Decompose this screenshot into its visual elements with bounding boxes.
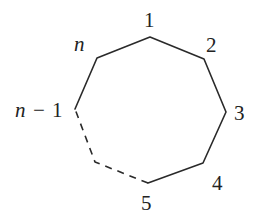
solid-edges-n-to-5 xyxy=(75,37,226,183)
vertex-label-3: 3 xyxy=(234,101,245,125)
vertex-label-5: 5 xyxy=(141,191,152,215)
vertex-label-1: 1 xyxy=(144,8,155,32)
vertex-label-n-minus-1-n: n xyxy=(15,98,26,122)
polygon-diagram: 1 2 3 4 5 n n − 1 xyxy=(0,0,259,219)
vertex-label-4: 4 xyxy=(212,171,223,195)
vertex-label-n: n xyxy=(74,32,85,56)
dashed-edges-5-to-n-minus-1 xyxy=(75,109,148,183)
polygon-svg: 1 2 3 4 5 n n − 1 xyxy=(0,0,259,219)
vertex-label-n-minus-1-minus: − xyxy=(33,98,45,122)
vertex-label-n-minus-1-one: 1 xyxy=(52,98,63,122)
vertex-label-2: 2 xyxy=(206,33,217,57)
